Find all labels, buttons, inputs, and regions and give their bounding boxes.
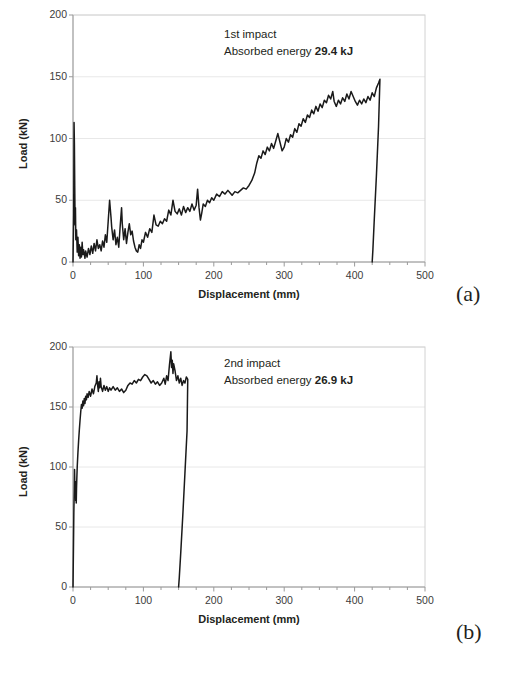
y-tick-label-b: 150 (29, 400, 67, 412)
annotation-a-line1: 1st impact (224, 26, 353, 43)
chart-a: Load (kN) Displacement (mm) 1st impact A… (0, 0, 445, 340)
y-tick-label-a: 200 (29, 8, 67, 20)
chart-b-plot (0, 325, 445, 678)
x-tick-label-b: 400 (330, 594, 380, 606)
x-tick-label-b: 0 (48, 594, 98, 606)
subfigure-label-b: (b) (456, 619, 482, 645)
x-tick-label-b: 500 (400, 594, 450, 606)
x-tick-label-a: 200 (189, 269, 239, 281)
x-tick-label-b: 300 (259, 594, 309, 606)
annotation-b-line2: Absorbed energy 26.9 kJ (224, 372, 353, 389)
chart-b: Load (kN) Displacement (mm) 2nd impact A… (0, 325, 445, 678)
y-axis-title-b: Load (kN) (17, 446, 29, 497)
subfigure-label-a: (a) (456, 281, 480, 307)
figure-panel-b: Load (kN) Displacement (mm) 2nd impact A… (0, 325, 523, 678)
x-tick-label-b: 100 (118, 594, 168, 606)
annotation-a: 1st impact Absorbed energy 29.4 kJ (224, 26, 353, 60)
annotation-a-line2: Absorbed energy 29.4 kJ (224, 43, 353, 60)
x-tick-label-a: 0 (48, 269, 98, 281)
x-tick-label-a: 100 (118, 269, 168, 281)
x-tick-label-a: 400 (330, 269, 380, 281)
x-tick-label-a: 500 (400, 269, 450, 281)
x-tick-label-a: 300 (259, 269, 309, 281)
y-tick-label-b: 50 (29, 520, 67, 532)
figure-panel-a: Load (kN) Displacement (mm) 1st impact A… (0, 0, 523, 340)
x-tick-label-b: 200 (189, 594, 239, 606)
annotation-b: 2nd impact Absorbed energy 26.9 kJ (224, 355, 353, 389)
y-tick-label-a: 150 (29, 70, 67, 82)
y-tick-label-b: 0 (29, 580, 67, 592)
annotation-b-line1: 2nd impact (224, 355, 353, 372)
y-tick-label-b: 100 (29, 460, 67, 472)
x-axis-title-b: Displacement (mm) (73, 613, 425, 625)
annotation-b-energy-value: 26.9 kJ (315, 374, 353, 386)
annotation-a-energy-value: 29.4 kJ (315, 45, 353, 57)
y-tick-label-a: 100 (29, 132, 67, 144)
annotation-a-line2-prefix: Absorbed energy (224, 45, 315, 57)
x-axis-title-a: Displacement (mm) (73, 288, 425, 300)
y-tick-label-b: 200 (29, 340, 67, 352)
y-axis-title-a: Load (kN) (17, 118, 29, 169)
y-tick-label-a: 0 (29, 255, 67, 267)
annotation-b-line2-prefix: Absorbed energy (224, 374, 315, 386)
y-tick-label-a: 50 (29, 193, 67, 205)
